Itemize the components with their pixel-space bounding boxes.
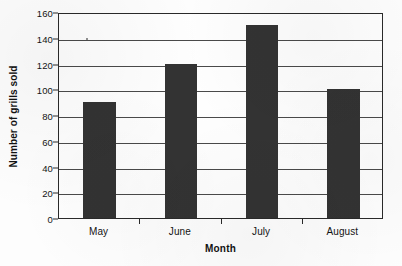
gridline (59, 40, 382, 41)
x-axis-tick-labels: MayJuneJulyAugust (58, 226, 383, 242)
x-axis-tick-mark (139, 219, 140, 224)
x-axis-title: Month (58, 243, 383, 254)
bar (83, 102, 116, 218)
y-axis-tick-mark (53, 13, 58, 14)
x-axis-tick-label: July (252, 226, 270, 237)
x-axis-tick-label: June (169, 226, 191, 237)
bar-chart-figure: Number of grills sold 020406080100120140… (0, 0, 402, 266)
y-axis-tick-mark (53, 141, 58, 142)
y-axis-tick-mark (53, 193, 58, 194)
x-axis-tick-label: August (327, 226, 359, 237)
bar (246, 25, 279, 218)
bar (327, 89, 360, 218)
y-axis-tick-mark (53, 90, 58, 91)
y-axis-title-text: Number of grills sold (8, 65, 19, 167)
y-axis-tick-mark (53, 64, 58, 65)
y-axis-tick-mark (53, 219, 58, 220)
gridline (59, 66, 382, 67)
y-axis-tick-mark (53, 38, 58, 39)
x-axis-tick-label: May (89, 226, 108, 237)
bar (165, 64, 198, 219)
plot-area (58, 13, 383, 219)
x-axis-tick-mark (302, 219, 303, 224)
scan-speckle-artifact (86, 38, 88, 40)
x-axis-tick-mark (221, 219, 222, 224)
y-axis-tick-mark (53, 167, 58, 168)
y-axis-tick-mark (53, 116, 58, 117)
